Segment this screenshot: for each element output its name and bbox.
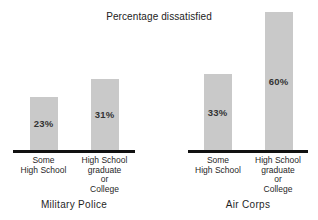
bar-column: 60% (265, 12, 293, 150)
x-axis-line (13, 150, 135, 153)
bars-area: 33%60% (188, 10, 308, 150)
bars-area: 23%31% (13, 10, 135, 150)
bar-column: 33% (204, 74, 232, 150)
bar-value-label: 31% (95, 109, 115, 120)
bar: 31% (91, 79, 119, 150)
category-label: High School graduate or College (248, 156, 308, 194)
category-label: Some High School (188, 156, 248, 194)
bar-column: 23% (30, 97, 58, 150)
category-labels: Some High SchoolHigh School graduate or … (188, 156, 308, 194)
x-axis-line (188, 150, 308, 153)
group-label: Air Corps (188, 199, 308, 210)
chart-group-air-corps: 33%60% Some High SchoolHigh School gradu… (188, 10, 308, 210)
bar: 33% (204, 74, 232, 150)
bar-column: 31% (91, 79, 119, 150)
dissatisfaction-bar-chart: Percentage dissatisfied 23%31% Some High… (0, 0, 318, 220)
bar: 23% (30, 97, 58, 150)
category-label: High School graduate or College (74, 156, 135, 194)
bar: 60% (265, 12, 293, 150)
bar-value-label: 33% (208, 107, 228, 118)
category-label: Some High School (13, 156, 74, 194)
chart-group-military-police: 23%31% Some High SchoolHigh School gradu… (13, 10, 135, 210)
bar-value-label: 60% (269, 76, 289, 87)
bar-value-label: 23% (34, 118, 54, 129)
group-label: Military Police (13, 199, 135, 210)
category-labels: Some High SchoolHigh School graduate or … (13, 156, 135, 194)
